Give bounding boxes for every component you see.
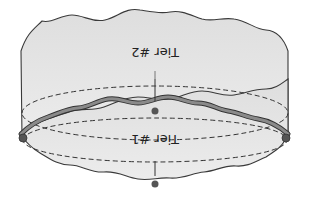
tiered-skirt-diagram: Tier #1 Tier #2	[0, 0, 310, 201]
tier-1-center-point	[152, 181, 159, 188]
seam-right-point	[19, 134, 27, 142]
tier-2-center-point	[152, 108, 159, 115]
tier-1-label: Tier #1	[131, 132, 180, 147]
tier-2-label: Tier #2	[131, 45, 180, 60]
diagram-stage: Tier #1 Tier #2	[0, 0, 310, 201]
seam-left-point	[282, 134, 290, 142]
